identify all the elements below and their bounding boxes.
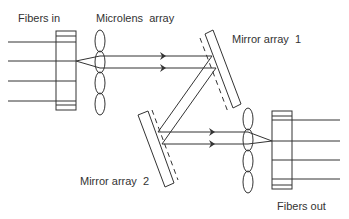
input-fibers <box>8 42 76 101</box>
label-fibers-out: Fibers out <box>277 200 326 212</box>
beam-upper <box>100 56 216 68</box>
label-mirror-array-2: Mirror array 2 <box>80 175 149 187</box>
output-fibers <box>272 120 340 179</box>
output-fiber-block <box>272 111 292 189</box>
label-fibers-in: Fibers in <box>18 12 60 24</box>
label-microlens-array: Microlens array <box>96 12 174 24</box>
input-microlens-array <box>95 30 105 115</box>
input-fiber-block <box>56 31 76 110</box>
beam-lower <box>158 132 248 144</box>
arrow-icons <box>160 52 215 148</box>
label-mirror-array-1: Mirror array 1 <box>232 33 301 45</box>
beam-diagonal <box>158 56 216 144</box>
output-microlens-array <box>243 108 253 193</box>
